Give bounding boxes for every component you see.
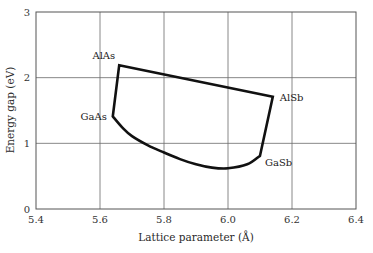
y-tick-label: 1 — [24, 138, 30, 149]
x-tick-label: 5.4 — [28, 214, 44, 225]
x-axis-ticks: 5.45.65.86.06.26.4 — [28, 214, 364, 225]
y-tick-label: 3 — [24, 7, 30, 18]
alloy-boundary-curve — [113, 65, 273, 168]
x-tick-label: 6.2 — [284, 214, 300, 225]
x-axis-title: Lattice parameter (Å) — [138, 230, 253, 243]
label-gasb: GaSb — [265, 157, 292, 168]
y-axis-ticks: 0123 — [24, 7, 30, 215]
label-gaas: GaAs — [80, 111, 106, 122]
chart: 5.45.65.86.06.26.4 0123 AlAsAlSbGaSbGaAs… — [0, 0, 373, 253]
label-alsb: AlSb — [279, 92, 304, 103]
y-axis-title: Energy gap (eV) — [4, 67, 16, 154]
label-alas: AlAs — [91, 50, 115, 61]
x-tick-label: 5.6 — [92, 214, 108, 225]
x-tick-label: 6.0 — [220, 214, 236, 225]
y-tick-label: 0 — [24, 204, 30, 215]
x-tick-label: 5.8 — [156, 214, 172, 225]
y-tick-label: 2 — [24, 72, 30, 83]
x-tick-label: 6.4 — [348, 214, 364, 225]
